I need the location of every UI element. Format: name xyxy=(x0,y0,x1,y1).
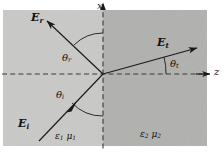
medium-2-mu-subscript: 2 xyxy=(157,132,161,139)
medium-2-region xyxy=(103,10,207,146)
incident-field-label: Ei xyxy=(18,118,29,130)
theta-r-label: θr xyxy=(62,53,71,64)
reflected-field-label: Er xyxy=(31,12,43,24)
medium-2-epsilon-subscript: 2 xyxy=(145,132,149,139)
theta-t-subscript: t xyxy=(176,62,179,70)
medium-1-epsilon-subscript: 1 xyxy=(60,134,64,141)
transmitted-field-label: Et xyxy=(157,37,169,49)
z-axis-label: z xyxy=(214,67,219,77)
medium-2-parameters: ε2 μ2 xyxy=(140,130,161,139)
theta-t-label: θt xyxy=(170,59,179,70)
transmitted-field-subscript: t xyxy=(165,41,168,50)
theta-r-subscript: r xyxy=(68,56,71,64)
theta-i-subscript: i xyxy=(62,93,64,101)
physics-diagram-figure: x z Er Ei Et θr θi θt ε1 μ1 ε2 μ2 xyxy=(0,0,224,152)
theta-i-label: θi xyxy=(56,90,64,101)
medium-1-parameters: ε1 μ1 xyxy=(55,132,76,141)
x-axis-label: x xyxy=(97,1,103,11)
medium-1-mu-subscript: 1 xyxy=(72,134,76,141)
incident-field-subscript: i xyxy=(26,122,29,131)
reflected-field-subscript: r xyxy=(39,16,43,25)
